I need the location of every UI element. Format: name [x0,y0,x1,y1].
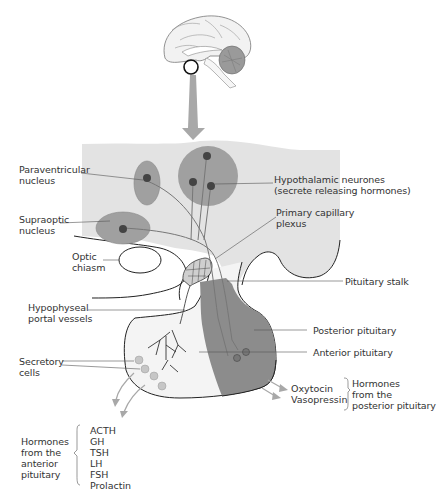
label-pituitary-stalk: Pituitary stalk [345,276,409,287]
pituitary-diagram [0,0,437,503]
zoom-arrow-icon [182,75,205,140]
hormone-tsh: TSH [90,447,131,458]
anterior-hormone-list: ACTH GH TSH LH FSH Prolactin [90,425,131,491]
label-anterior-hormones-group: Hormones from the anterior pituitary [21,436,69,480]
anterior-brace [74,425,80,485]
label-supraoptic-nucleus: Supraoptic nucleus [19,214,69,236]
posterior-hormone-list: Oxytocin Vasopressin [291,383,347,405]
brain-icon [164,16,251,88]
hormone-fsh: FSH [90,469,131,480]
hormone-lh: LH [90,458,131,469]
paraventricular-nucleus [134,161,160,205]
label-posterior-pituitary: Posterior pituitary [313,325,396,336]
label-hypothalamic-neurones: Hypothalamic neurones (secrete releasing… [274,174,411,196]
hormone-gh: GH [90,436,131,447]
hormone-prolactin: Prolactin [90,480,131,491]
label-hypophyseal-portal-vessels: Hypophyseal portal vessels [28,302,92,324]
hormone-vasopressin: Vasopressin [291,394,347,405]
label-anterior-pituitary: Anterior pituitary [313,347,393,358]
hormone-acth: ACTH [90,425,131,436]
label-paraventricular-nucleus: Paraventricular nucleus [19,164,90,186]
label-secretory-cells: Secretory cells [19,356,64,378]
optic-chiasm [119,247,161,273]
hormone-oxytocin: Oxytocin [291,383,347,394]
label-posterior-hormones-group: Hormones from the posterior pituitary [352,378,436,411]
label-optic-chiasm: Optic chiasm [72,251,105,273]
label-primary-capillary-plexus: Primary capillary plexus [276,207,354,229]
